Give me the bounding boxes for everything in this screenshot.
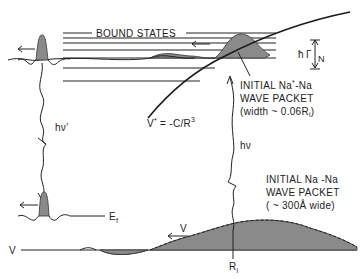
svg-text:WAVE PACKET: WAVE PACKET	[266, 187, 340, 198]
initial-excited-label: INITIAL Na*-Na WAVE PACKET (width ~ 0.06…	[240, 79, 314, 118]
final-energy-label: Ef	[109, 211, 118, 224]
hv-prime-label: hν′	[55, 122, 68, 133]
initial-ground-label: INITIAL Na -Na WAVE PACKET ( ~ 300Å wide…	[266, 174, 340, 211]
final-arrow	[20, 202, 38, 208]
top-left-wave-spike	[36, 35, 48, 60]
top-left-arrow	[18, 46, 35, 52]
hv-label: hν	[240, 140, 251, 151]
ground-velocity-label: V	[180, 223, 187, 234]
wave-packet-diagram: BOUND STATES ħ Γ N INITIAL Na*-Na WAVE P…	[0, 0, 364, 279]
photon-hv-prime	[38, 63, 46, 198]
ri-label: Ri	[229, 261, 239, 274]
final-wave-spike	[39, 192, 49, 216]
svg-text:( ~ 300Å wide): ( ~ 300Å wide)	[266, 199, 335, 211]
linewidth-marker: ħ Γ N	[298, 40, 325, 69]
svg-text:WAVE PACKET: WAVE PACKET	[240, 93, 314, 104]
bound-states-label: BOUND STATES	[96, 28, 176, 39]
excited-velocity-arrow	[192, 41, 210, 47]
svg-text:INITIAL Na -Na: INITIAL Na -Na	[266, 174, 338, 185]
svg-text:INITIAL Na*-Na: INITIAL Na*-Na	[240, 79, 312, 91]
excited-potential-label: V* = -C/R3	[147, 116, 195, 129]
gamma-symbol: Γ	[306, 49, 312, 60]
svg-text:(width ~ 0.06Ri): (width ~ 0.06Ri)	[240, 106, 314, 118]
hbar-symbol: ħ	[298, 49, 304, 60]
gamma-subscript: N	[318, 54, 325, 64]
ground-potential-label: V	[9, 245, 16, 256]
